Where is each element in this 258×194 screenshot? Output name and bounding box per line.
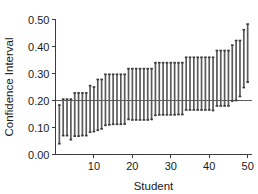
- y-tick-label: 0.20: [28, 95, 49, 107]
- ci-bar: [200, 57, 203, 110]
- ci-bar: [189, 57, 192, 110]
- ci-bar: [58, 105, 61, 144]
- y-tick-label: 0.10: [28, 122, 49, 134]
- x-tick-label: 50: [242, 160, 254, 172]
- ci-bar: [243, 30, 246, 88]
- ci-bar: [146, 69, 149, 120]
- ci-bar: [181, 63, 184, 115]
- ci-bar: [216, 51, 219, 106]
- ci-bar: [173, 63, 176, 115]
- ci-bar: [246, 24, 249, 82]
- ci-bar: [85, 93, 88, 136]
- x-axis-title: Student: [134, 180, 174, 192]
- y-axis-title: Confidence Interval: [3, 37, 15, 136]
- ci-bar: [227, 51, 230, 106]
- ci-bar: [169, 63, 172, 115]
- ci-bar: [104, 74, 107, 125]
- y-tick-label: 0.30: [28, 68, 49, 80]
- ci-bar: [196, 57, 199, 110]
- ci-bar: [123, 74, 126, 124]
- ci-bar: [112, 74, 115, 124]
- ci-bar: [143, 69, 146, 120]
- x-tick-label: 10: [88, 160, 100, 172]
- ci-bar: [150, 69, 153, 120]
- ci-bar: [235, 41, 238, 101]
- ci-bar: [73, 93, 76, 136]
- ci-bar: [120, 74, 123, 124]
- ci-bar: [185, 57, 188, 110]
- ci-bar: [212, 57, 215, 110]
- ci-bar: [154, 63, 157, 116]
- ci-bar: [96, 79, 99, 130]
- ci-bar: [100, 79, 103, 128]
- ci-bar: [204, 57, 207, 110]
- ci-bar: [158, 63, 161, 115]
- ci-bar: [219, 51, 222, 106]
- ci-bar: [89, 86, 92, 132]
- ci-bar: [231, 45, 234, 101]
- ci-bar: [81, 93, 84, 136]
- y-tick-label: 0.00: [28, 149, 49, 161]
- ci-bar: [139, 69, 142, 120]
- x-tick-label: 30: [165, 160, 177, 172]
- ci-bar: [177, 63, 180, 115]
- ci-bar: [70, 99, 73, 139]
- ci-bar: [162, 63, 165, 115]
- chart-canvas: 0.000.100.200.300.400.501020304050Studen…: [0, 0, 258, 194]
- ci-bar: [77, 93, 80, 136]
- ci-bar: [66, 99, 69, 135]
- confidence-interval-bars: [58, 24, 249, 144]
- y-tick-label: 0.50: [28, 14, 49, 26]
- ci-bar: [62, 99, 65, 135]
- ci-bar: [131, 69, 134, 120]
- ci-bar: [116, 74, 119, 124]
- ci-bar: [166, 63, 169, 115]
- ci-bar: [208, 57, 211, 110]
- ci-bar: [193, 57, 196, 110]
- y-tick-label: 0.40: [28, 41, 49, 53]
- ci-bar: [239, 41, 242, 97]
- ci-bar: [223, 51, 226, 106]
- ci-bar: [108, 74, 111, 124]
- x-tick-label: 20: [126, 160, 138, 172]
- ci-bar: [93, 87, 96, 132]
- confidence-interval-chart: 0.000.100.200.300.400.501020304050Studen…: [0, 0, 258, 194]
- ci-bar: [135, 69, 138, 120]
- ci-bar: [127, 69, 130, 120]
- x-tick-label: 40: [203, 160, 215, 172]
